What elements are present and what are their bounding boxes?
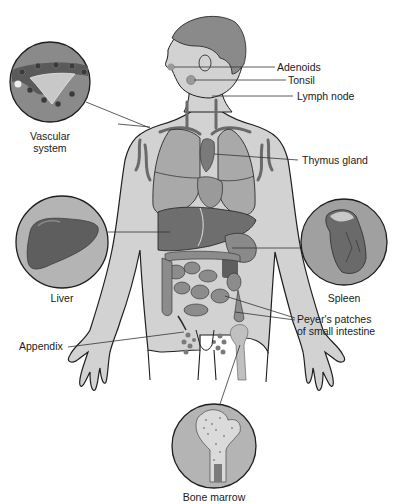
label-vascular-line1: Vascular xyxy=(30,130,70,142)
label-vascular-system: Vascular system xyxy=(30,130,70,154)
label-tonsil: Tonsil xyxy=(288,74,315,86)
label-peyers-line1: Peyer's patches xyxy=(297,313,375,325)
vascular-system-inset xyxy=(10,42,90,122)
label-appendix: Appendix xyxy=(19,340,63,352)
label-liver: Liver xyxy=(51,292,74,304)
ear xyxy=(199,55,211,71)
label-spleen: Spleen xyxy=(328,292,361,304)
label-peyers-line2: of small intestine xyxy=(297,325,375,337)
label-vascular-line2: system xyxy=(30,142,70,154)
label-bone-marrow: Bone marrow xyxy=(183,491,245,503)
label-lymph-node: Lymph node xyxy=(297,90,354,102)
spleen-inset xyxy=(301,199,387,285)
femur-in-body xyxy=(230,325,248,380)
anatomy-illustration xyxy=(0,0,413,504)
label-thymus-gland: Thymus gland xyxy=(302,154,368,166)
legs xyxy=(148,350,268,382)
label-adenoids: Adenoids xyxy=(277,61,321,73)
lymphatic-system-diagram: Adenoids Tonsil Lymph node Vascular syst… xyxy=(0,0,413,504)
bone-marrow-inset xyxy=(172,404,256,488)
label-peyers-patches: Peyer's patches of small intestine xyxy=(297,313,375,337)
liver-inset xyxy=(16,196,108,288)
adenoids-marker xyxy=(168,64,175,71)
